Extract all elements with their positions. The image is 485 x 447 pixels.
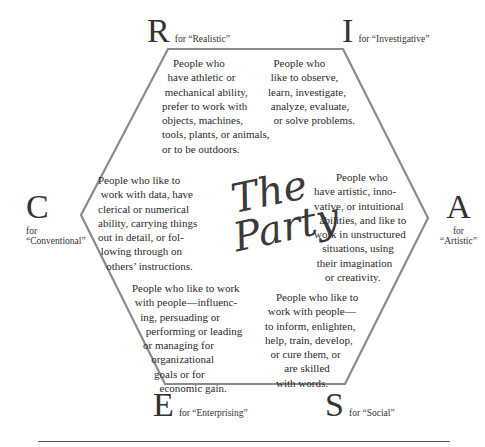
bottom-rule (38, 441, 450, 442)
type-s-letter: S (325, 386, 344, 423)
type-c-heading: C for “Conventional” (26, 192, 86, 246)
type-r-label: for “Realistic” (175, 34, 230, 44)
type-i-letter: I (342, 12, 353, 49)
type-a-label: “Artistic” (440, 236, 477, 246)
type-c-label-for: for (26, 226, 86, 236)
center-title: The Party (222, 160, 342, 257)
type-e-description: People who like to work with people—infl… (132, 281, 242, 395)
type-s-heading: S for “Social” (325, 390, 395, 420)
type-c-label: “Conventional” (26, 236, 86, 246)
type-s-label: for “Social” (349, 408, 395, 418)
type-a-heading: A for “Artistic” (440, 192, 477, 246)
type-i-heading: I for “Investigative” (342, 16, 429, 46)
type-c-letter: C (26, 192, 86, 222)
type-s-description: People who like to work with people— to … (265, 290, 358, 390)
type-r-description: People who have athletic or mechanical a… (162, 56, 270, 156)
type-c-description: People who like to work with data, have … (98, 173, 197, 273)
type-i-label: for “Investigative” (358, 34, 429, 44)
type-r-heading: R for “Realistic” (147, 16, 230, 46)
type-a-letter: A (440, 192, 477, 222)
type-i-description: People who like to observe, learn, inves… (268, 56, 355, 127)
type-r-letter: R (147, 12, 170, 49)
type-e-label: for “Enterprising” (179, 408, 248, 418)
type-a-label-for: for (440, 226, 477, 236)
